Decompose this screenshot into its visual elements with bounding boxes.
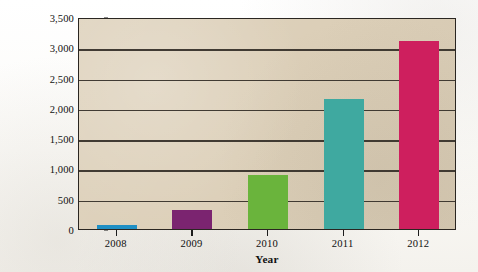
bar-2008 [97, 225, 137, 229]
bar-chart-figure: E-Book Sales Growth, 2008–2012 (millions… [0, 0, 478, 272]
y-axis-tick-labels: 05001,0001,5002,0002,5003,0003,500 [30, 12, 74, 230]
y-axis-tick-label: 500 [30, 194, 74, 205]
bar-2012 [399, 41, 439, 229]
x-axis-tick-mark [343, 230, 344, 236]
y-axis-tick-label: 0 [30, 225, 74, 236]
x-axis-tick-label-2009: 2009 [180, 238, 202, 249]
x-axis-tick-label-2012: 2012 [407, 238, 429, 249]
y-axis-tick-label: 2,000 [30, 103, 74, 114]
x-axis-tick-labels: 20082009201020112012 [78, 238, 456, 254]
y-axis-tick-label: 1,500 [30, 134, 74, 145]
y-axis-tick-label: 2,500 [30, 73, 74, 84]
bar-2010 [248, 175, 288, 230]
y-axis-tick-label: 1,000 [30, 164, 74, 175]
y-axis-tick-label: 3,500 [30, 13, 74, 24]
x-axis-tick-mark [267, 230, 268, 236]
x-axis-tick-mark [418, 230, 419, 236]
bar-2011 [324, 99, 364, 229]
x-axis-tick-mark [191, 230, 192, 236]
x-axis-tick-label-2008: 2008 [105, 238, 127, 249]
bar-2009 [172, 210, 212, 229]
x-axis-tick-label-2011: 2011 [332, 238, 354, 249]
x-axis-tick-marks [78, 230, 456, 238]
x-axis-tick-mark [116, 230, 117, 236]
plot-area [78, 18, 456, 230]
x-axis-tick-label-2010: 2010 [256, 238, 278, 249]
bars-layer [79, 19, 455, 229]
x-axis-title: Year [78, 253, 456, 265]
y-axis-tick-label: 3,000 [30, 43, 74, 54]
